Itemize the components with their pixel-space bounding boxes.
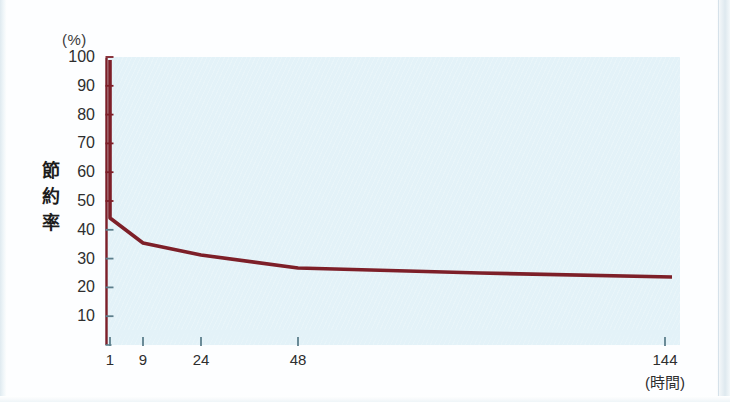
y-axis-tick-label: 20 [55, 278, 95, 296]
x-axis-unit-label: (時間) [645, 371, 685, 392]
y-axis-tick-label: 80 [55, 106, 95, 124]
series-line-savings-rate [110, 60, 672, 277]
y-axis-tick-label: 100 [55, 48, 95, 66]
x-axis-tick-label: 144 [652, 351, 677, 368]
x-axis-tick-label: 9 [139, 351, 147, 368]
y-axis-tick-label: 50 [55, 192, 95, 210]
series-group [110, 60, 672, 277]
x-axis-group [110, 337, 665, 346]
x-axis-tick-label: 24 [193, 351, 210, 368]
y-axis-tick-label: 40 [55, 221, 95, 239]
chart-graphics [0, 0, 730, 402]
x-axis-tick-label: 48 [290, 351, 307, 368]
y-axis-tick-label: 60 [55, 163, 95, 181]
y-axis-tick-label: 30 [55, 250, 95, 268]
y-axis-tick-label: 10 [55, 307, 95, 325]
line-chart: (%) 節 約 率 100908070605040302010 19244814… [0, 0, 730, 402]
y-axis-tick-label: 70 [55, 134, 95, 152]
x-axis-tick-label: 1 [106, 351, 114, 368]
page-canvas: (%) 節 約 率 100908070605040302010 19244814… [0, 0, 730, 402]
y-axis-unit-label: (%) [62, 31, 87, 48]
x-axis-ticks [110, 337, 665, 346]
y-axis-tick-label: 90 [55, 77, 95, 95]
